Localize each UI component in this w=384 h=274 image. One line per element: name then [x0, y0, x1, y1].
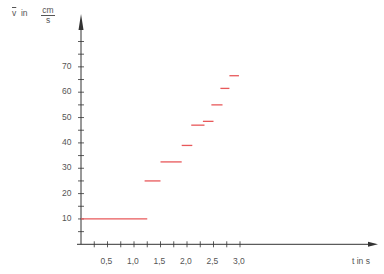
tick-marks: [78, 42, 240, 248]
y-tick-label: 40: [62, 137, 71, 147]
x-axis-arrow-icon: [368, 242, 378, 247]
y-tick-label: 50: [62, 112, 71, 122]
y-tick-label: 70: [62, 61, 71, 71]
x-tick-label: 0,5: [101, 256, 113, 266]
data-series: [81, 76, 239, 219]
x-tick-label: 1,5: [154, 256, 166, 266]
chart-plot: [0, 0, 384, 274]
y-tick-label: 30: [62, 162, 71, 172]
y-tick-label: 60: [62, 86, 71, 96]
y-tick-label: 20: [62, 188, 71, 198]
axes: [77, 14, 378, 247]
x-tick-label: 3,0: [233, 256, 245, 266]
y-tick-label: 10: [62, 213, 71, 223]
x-tick-label: 2,0: [180, 256, 192, 266]
y-axis-arrow-icon: [79, 14, 84, 30]
x-tick-label: 2,5: [207, 256, 219, 266]
x-tick-label: 1,0: [127, 256, 139, 266]
